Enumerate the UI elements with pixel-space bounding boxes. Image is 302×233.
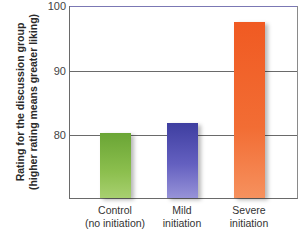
bar-mild-initiation: [167, 123, 198, 198]
y-axis-label-line-2: (higher rating means greater liking): [27, 7, 40, 197]
bar-control: [100, 133, 131, 198]
x-label-severe: Severe initiation: [209, 204, 289, 230]
y-tick-100: 100: [48, 0, 66, 12]
x-label-severe-line-1: Severe: [209, 204, 289, 217]
plot-area: [69, 6, 298, 199]
x-label-severe-line-2: initiation: [209, 217, 289, 230]
y-axis-label-line-1: Rating for the discussion group: [14, 7, 27, 197]
gridline-100: [70, 6, 297, 7]
y-axis-label: Rating for the discussion group (higher …: [14, 7, 42, 197]
y-tick-80: 80: [54, 129, 66, 141]
y-tick-90: 90: [54, 65, 66, 77]
bar-severe-initiation: [234, 22, 265, 198]
